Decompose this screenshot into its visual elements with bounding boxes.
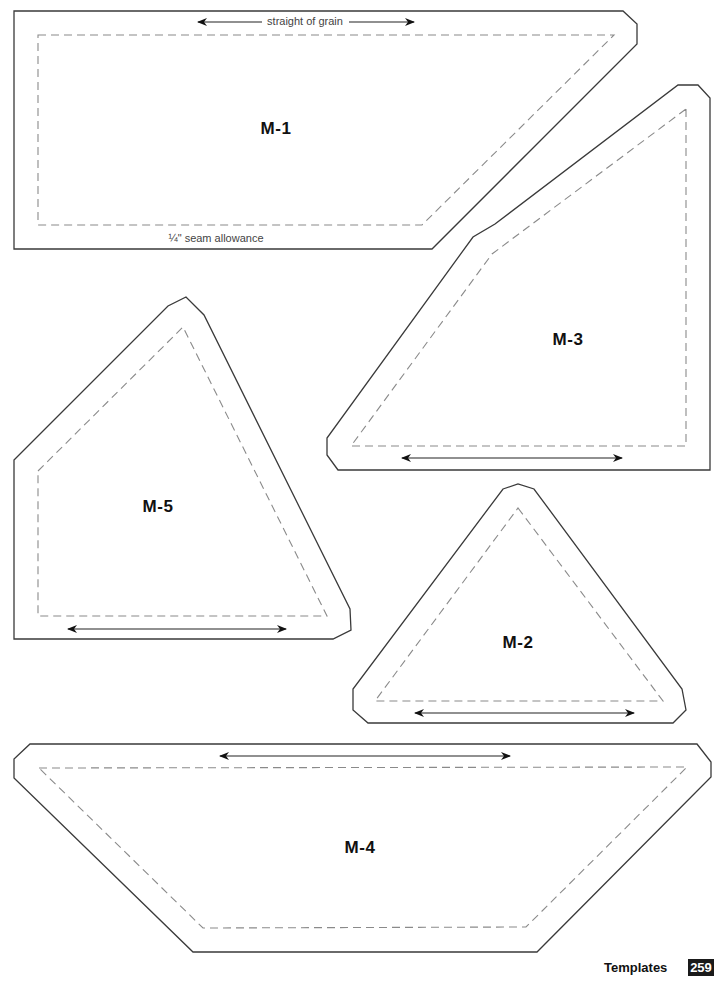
cut-line: [14, 297, 351, 639]
template-label-m5: M-5: [143, 497, 174, 517]
template-label-m4: M-4: [345, 838, 376, 858]
template-label-m1: M-1: [261, 119, 292, 139]
grain-note: straight of grain: [264, 15, 346, 27]
page-number-badge: 259: [688, 959, 714, 976]
seam-allowance-note: ¼" seam allowance: [165, 232, 266, 244]
template-m2: [353, 484, 686, 723]
template-label-m3: M-3: [553, 330, 584, 350]
section-title: Templates: [604, 960, 667, 975]
cut-line: [353, 484, 686, 723]
template-label-m2: M-2: [503, 633, 534, 653]
template-m5: [14, 297, 351, 639]
